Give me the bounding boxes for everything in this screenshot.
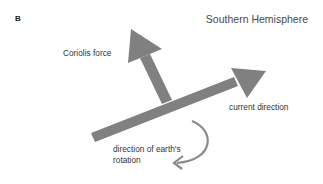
rotation-label-line2: rotation xyxy=(113,155,181,166)
coriolis-force-label: Coriolis force xyxy=(63,48,111,59)
current-direction-label: current direction xyxy=(229,102,289,113)
rotation-label: direction of earth's rotation xyxy=(113,144,181,166)
rotation-label-line1: direction of earth's xyxy=(113,144,181,155)
coriolis-force-arrow xyxy=(128,29,172,104)
